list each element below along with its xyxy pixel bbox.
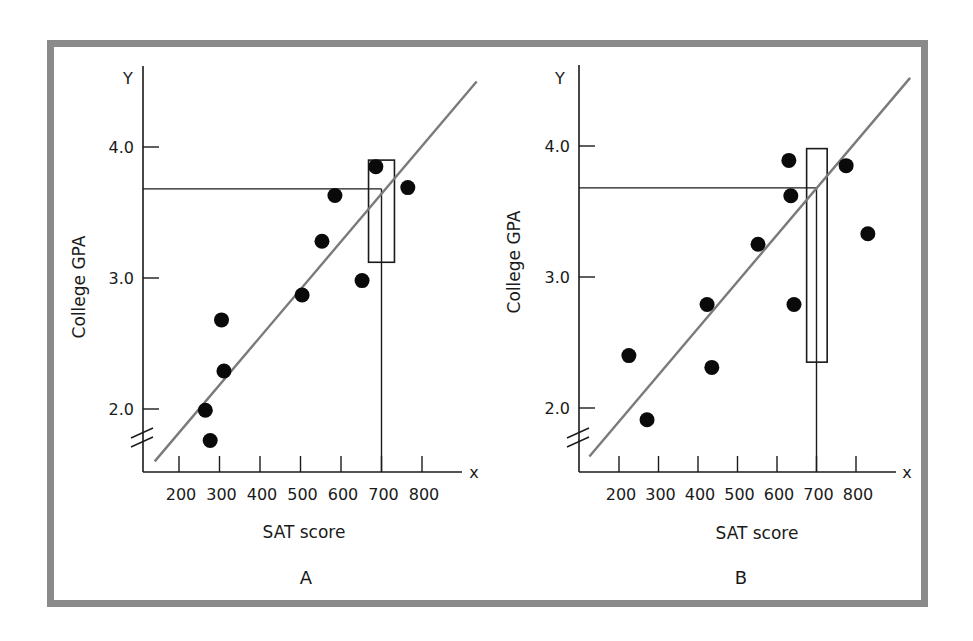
data-point <box>640 412 655 427</box>
panel-a-guides <box>143 160 394 472</box>
x-tick-label: 600 <box>328 485 359 504</box>
panel-b-points <box>621 153 875 427</box>
x-tick-label: 400 <box>247 485 278 504</box>
data-point <box>214 312 229 327</box>
data-point <box>704 360 719 375</box>
data-point <box>786 297 801 312</box>
data-point <box>355 273 370 288</box>
data-point <box>198 403 213 418</box>
y-tick-label: 2.0 <box>545 399 570 418</box>
x-tick-label: 800 <box>409 485 440 504</box>
data-point <box>327 188 342 203</box>
y-tick-label: 3.0 <box>109 269 134 288</box>
axis-break-icon <box>567 428 589 438</box>
data-point <box>203 433 218 448</box>
x-tick-label: 200 <box>166 485 197 504</box>
panel-a-y-letter: Y <box>122 69 133 88</box>
x-tick-label: 500 <box>287 485 318 504</box>
data-point <box>783 188 798 203</box>
data-point <box>751 237 766 252</box>
x-tick-label: 200 <box>606 485 637 504</box>
data-point <box>860 226 875 241</box>
y-tick-label: 3.0 <box>545 268 570 287</box>
panel-a-axes: 2003004005006007008002.03.04.0 <box>109 66 462 504</box>
data-point <box>839 158 854 173</box>
panel-a-x-title: SAT score <box>263 522 346 542</box>
axis-break-icon <box>567 437 589 447</box>
data-point <box>216 364 231 379</box>
panel-a-label: A <box>300 567 313 588</box>
panel-a-points <box>198 159 416 448</box>
panel-b-y-letter: Y <box>554 69 565 88</box>
x-tick-label: 800 <box>843 485 874 504</box>
panel-b-label: B <box>735 567 747 588</box>
axis-break-icon <box>131 437 153 447</box>
data-point <box>295 288 310 303</box>
regression-line <box>589 78 910 457</box>
panel-b-x-letter: x <box>902 463 911 482</box>
panel-b-y-title: College GPA <box>504 210 524 313</box>
panel-a-y-title: College GPA <box>69 235 89 338</box>
x-tick-label: 300 <box>206 485 237 504</box>
panel-b-regression-line <box>589 78 910 457</box>
data-point <box>621 348 636 363</box>
figure: 2003004005006007008002.03.04.0 Y x SAT s… <box>0 0 973 641</box>
panel-a: 2003004005006007008002.03.04.0 Y x SAT s… <box>69 66 479 588</box>
panel-a-x-letter: x <box>469 463 478 482</box>
data-point <box>368 159 383 174</box>
y-tick-label: 2.0 <box>109 400 134 419</box>
x-tick-label: 700 <box>803 485 834 504</box>
x-tick-label: 500 <box>724 485 755 504</box>
axis-break-icon <box>131 428 153 438</box>
data-point <box>781 153 796 168</box>
x-tick-label: 400 <box>685 485 716 504</box>
y-tick-label: 4.0 <box>109 138 134 157</box>
data-point <box>314 234 329 249</box>
panel-b-axes: 2003004005006007008002.03.04.0 <box>545 65 896 504</box>
panel-b-x-title: SAT score <box>716 523 799 543</box>
panel-b: 2003004005006007008002.03.04.0 Y x SAT s… <box>504 65 912 588</box>
x-tick-label: 300 <box>645 485 676 504</box>
x-tick-label: 600 <box>764 485 795 504</box>
data-point <box>700 297 715 312</box>
x-tick-label: 700 <box>368 485 399 504</box>
scatter-plots: 2003004005006007008002.03.04.0 Y x SAT s… <box>0 0 973 641</box>
data-point <box>400 180 415 195</box>
y-tick-label: 4.0 <box>545 137 570 156</box>
